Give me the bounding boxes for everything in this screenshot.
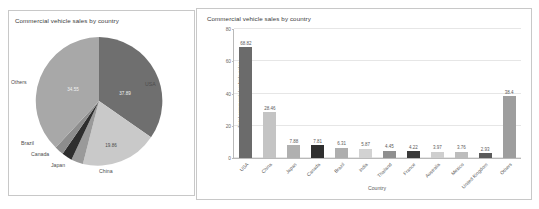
xtick-label-others: Others [499, 162, 513, 176]
bar-column: 68.82 USA [234, 29, 258, 158]
xtick-label-japan: Japan [285, 162, 298, 175]
bar-value-label: 3.76 [457, 145, 466, 150]
pie-svg: 37.89 19.86 34.55 [33, 35, 165, 167]
pie-chart-panel: Commercial vehicle sales by country 37.8… [8, 10, 195, 196]
bar-rect-united-kingdom[interactable] [479, 153, 492, 158]
bar-column: 28.46 China [258, 29, 282, 158]
pie-chart: 37.89 19.86 34.55 Others USA China Japan… [33, 35, 165, 167]
bar-value-label: 4.22 [409, 145, 418, 150]
bar-chart-plot-area: 0 20 40 60 80 68.82 U [233, 29, 521, 159]
bar-value-label: 3.97 [433, 145, 442, 150]
bar-value-label: 7.88 [289, 139, 298, 144]
ytick-label-20: 20 [226, 123, 231, 128]
pie-label-canada: Canada [31, 151, 49, 157]
bar-rect-japan[interactable] [287, 145, 300, 158]
bar-column: 3.97 Australia [425, 29, 449, 158]
bar-value-label: 6.31 [337, 141, 346, 146]
ytick-label-0: 0 [228, 156, 231, 161]
bar-rect-france[interactable] [407, 151, 420, 158]
pie-label-usa: USA [145, 81, 156, 87]
pie-value-china: 19.86 [105, 143, 117, 148]
bar-rect-mexico[interactable] [455, 152, 468, 158]
xtick-label-canada: Canada [306, 162, 321, 177]
bar-column: 4.22 France [401, 29, 425, 158]
pie-label-brazil: Brazil [21, 140, 34, 146]
ytick-label-40: 40 [226, 91, 231, 96]
bar-column: 4.45 Thailand [378, 29, 402, 158]
xtick-label-usa: USA [239, 162, 250, 173]
bar-chart-title: Commercial vehicle sales by country [207, 15, 311, 22]
bar-column: 7.88 Japan [282, 29, 306, 158]
bar-series: 68.82 USA 28.46 China 7.88 Japan 7.81 [234, 29, 521, 158]
bar-column: 2.93 United Kingdom [473, 29, 497, 158]
pie-chart-title: Commercial vehicle sales by country [15, 17, 119, 24]
ytick-label-80: 80 [226, 27, 231, 32]
bar-column: 5.87 India [354, 29, 378, 158]
ytick-mark-0 [232, 158, 234, 159]
bar-rect-canada[interactable] [311, 145, 324, 158]
xtick-label-india: India [358, 162, 369, 173]
bar-rect-india[interactable] [359, 149, 372, 158]
bar-column: 6.31 Brazil [330, 29, 354, 158]
pie-label-japan: Japan [51, 162, 65, 168]
bar-rect-china[interactable] [263, 112, 276, 158]
xtick-label-mexico: Mexico [451, 162, 465, 176]
pie-label-others: Others [11, 79, 27, 85]
bar-column: 7.81 Canada [306, 29, 330, 158]
bar-value-label: 2.93 [481, 147, 490, 152]
bar-rect-brazil[interactable] [335, 148, 348, 158]
bar-column: 3.76 Mexico [449, 29, 473, 158]
bar-value-label: 5.87 [361, 142, 370, 147]
bar-chart-panel: Commercial vehicle sales by country Tota… [196, 8, 532, 200]
bar-rect-usa[interactable] [239, 47, 252, 158]
bar-column: 38.4 Others [497, 29, 521, 158]
bar-value-label: 7.81 [313, 139, 322, 144]
xtick-label-brazil: Brazil [333, 162, 345, 174]
ytick-label-60: 60 [226, 59, 231, 64]
bar-value-label: 38.4 [505, 90, 514, 95]
bar-rect-others[interactable] [503, 96, 516, 158]
bar-value-label: 28.46 [264, 106, 275, 111]
bar-chart-x-axis-label: Country [233, 185, 521, 191]
bar-rect-thailand[interactable] [383, 151, 396, 158]
dashboard-root: Commercial vehicle sales by country 37.8… [0, 0, 539, 209]
pie-label-china: China [99, 168, 113, 174]
xtick-label-china: China [261, 162, 273, 174]
bar-rect-australia[interactable] [431, 152, 444, 158]
bar-value-label: 4.45 [385, 144, 394, 149]
xtick-label-australia: Australia [424, 162, 441, 179]
pie-value-others: 34.55 [67, 87, 79, 92]
xtick-label-thailand: Thailand [376, 162, 393, 179]
xtick-label-france: France [403, 162, 417, 176]
bar-value-label: 68.82 [240, 41, 251, 46]
pie-value-usa: 37.89 [119, 91, 131, 96]
